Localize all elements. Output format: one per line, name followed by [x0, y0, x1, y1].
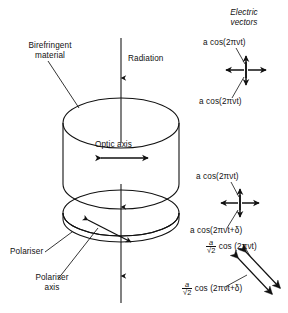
- resolved-arrow-second: [246, 252, 280, 288]
- optics-diagram-figure: Birefringent material Radiation Optic ax…: [0, 0, 288, 313]
- label-optic-axis: Optic axis: [95, 140, 132, 150]
- formula-diag-lower-fraction: a √2: [182, 281, 192, 297]
- polariser-axis-double-arrow: [88, 220, 131, 242]
- label-polariser-axis-line1: Polariser: [24, 273, 80, 283]
- formula-top-upper: a cos(2πνt): [203, 38, 246, 48]
- leader-formula-top-lower: [232, 77, 244, 98]
- label-electric-vectors: Electric vectors: [213, 8, 275, 27]
- label-electric-vectors-line1: Electric: [213, 8, 275, 18]
- label-radiation: Radiation: [128, 54, 164, 64]
- electric-vector-cross-top: [226, 48, 266, 98]
- resolved-arrow-first: [238, 258, 272, 294]
- electric-vector-cross-mid: [221, 182, 259, 228]
- label-birefringent-material-line2: material: [8, 51, 92, 61]
- label-birefringent-material-line1: Birefringent: [8, 41, 92, 51]
- label-birefringent-material: Birefringent material: [8, 41, 92, 60]
- leader-polariser: [45, 232, 72, 252]
- label-polariser-axis-line2: axis: [24, 283, 80, 293]
- leader-lines: [45, 61, 98, 279]
- label-electric-vectors-line2: vectors: [213, 18, 275, 28]
- formula-diag-lower: a √2 cos (2πνt+δ): [182, 281, 242, 297]
- formula-diag-lower-rest: cos (2πνt+δ): [195, 284, 243, 293]
- formula-diag-upper-rest: cos (2πνt): [219, 242, 257, 251]
- formula-mid-upper: a cos(2πνt): [196, 172, 239, 182]
- polariser-axis-arrow: [88, 220, 131, 242]
- leader-polariser-axis: [58, 228, 98, 279]
- formula-diag-upper-denominator: √2: [206, 247, 216, 254]
- leader-formula-top-upper: [236, 48, 245, 64]
- formula-mid-lower: a cos(2πνt+δ): [190, 226, 242, 236]
- label-polariser-axis: Polariser axis: [24, 273, 80, 292]
- formula-top-lower: a cos(2πνt): [199, 97, 242, 107]
- leader-birefringent-material: [48, 61, 79, 108]
- label-polariser: Polariser: [10, 247, 43, 257]
- formula-diag-upper: a √2 cos (2πνt): [206, 239, 257, 255]
- leader-formula-mid-upper: [231, 182, 239, 197]
- formula-diag-lower-denominator: √2: [182, 289, 192, 296]
- formula-diag-upper-fraction: a √2: [206, 239, 216, 255]
